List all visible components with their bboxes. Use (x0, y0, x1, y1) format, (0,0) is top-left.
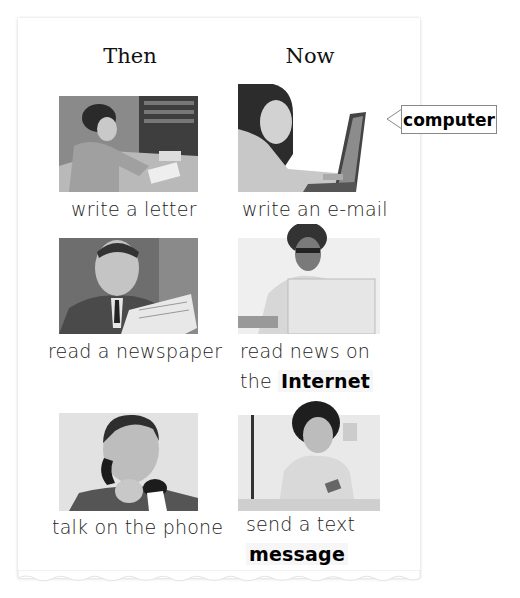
girl-using-laptop-photo (238, 84, 383, 192)
man-on-phone-photo (59, 413, 198, 511)
caption-read-news-on: read news on (240, 340, 370, 362)
computer-label-callout: computer (401, 105, 497, 134)
now-column-header: Now (240, 44, 380, 68)
caption-read-a-newspaper: read a newspaper (48, 340, 222, 362)
then-column-header: Then (60, 44, 200, 68)
torn-paper-edge (18, 570, 420, 584)
caption-the-internet: the Internet (240, 370, 373, 392)
caption-write-a-letter: write a letter (71, 198, 197, 220)
caption-write-an-email: write an e-mail (242, 198, 388, 220)
keyword-internet: Internet (278, 370, 373, 392)
woman-reading-laptop-photo (238, 224, 380, 334)
woman-writing-letter-photo (59, 96, 198, 192)
girl-texting-photo (238, 401, 380, 511)
caption-send-a-text: send a text (246, 513, 355, 535)
keyword-message: message (246, 543, 348, 565)
caption-message-line: message (246, 543, 348, 565)
man-reading-newspaper-photo (59, 238, 198, 334)
caption-the: the (240, 370, 272, 392)
caption-talk-on-the-phone: talk on the phone (52, 516, 223, 538)
